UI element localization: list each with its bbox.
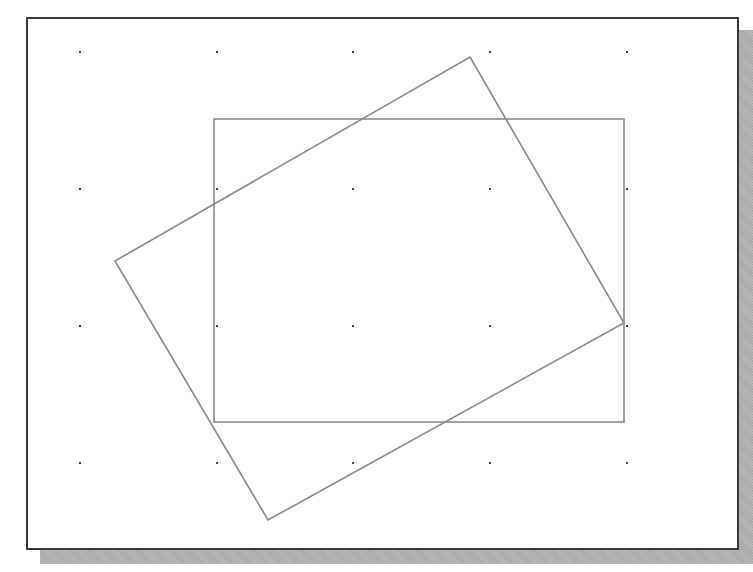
grid-dot — [216, 188, 218, 190]
grid-dot — [352, 51, 354, 53]
grid-dot — [626, 325, 628, 327]
grid-dot — [216, 462, 218, 464]
grid-dot — [489, 51, 491, 53]
grid-dot — [79, 462, 81, 464]
drawing-canvas — [0, 0, 753, 572]
grid-dot — [79, 51, 81, 53]
grid-dot — [79, 325, 81, 327]
rotated-rectangle[interactable] — [115, 57, 624, 520]
grid-dot — [626, 188, 628, 190]
grid-dot — [79, 188, 81, 190]
grid-dot — [626, 462, 628, 464]
grid-dot — [352, 462, 354, 464]
grid-dot — [352, 188, 354, 190]
grid-dot — [352, 325, 354, 327]
grid-dot — [626, 51, 628, 53]
grid-dot — [216, 325, 218, 327]
grid-dot — [216, 51, 218, 53]
grid-dot — [489, 325, 491, 327]
axis-aligned-rectangle[interactable] — [214, 119, 624, 422]
grid-dot — [489, 462, 491, 464]
grid-dot — [489, 188, 491, 190]
dot-grid — [79, 51, 628, 464]
